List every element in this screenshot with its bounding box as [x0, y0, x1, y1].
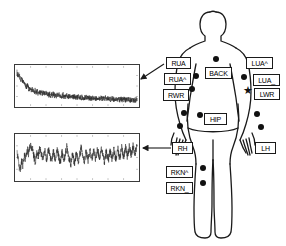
sensor-label-rkn[interactable]: RKN_ — [166, 182, 193, 194]
sensor-label-lua[interactable]: LUA_ — [253, 74, 280, 86]
callout-arrows — [0, 0, 286, 246]
sensor-label-back[interactable]: BACK — [205, 67, 232, 79]
star-marker-lwr: ★ — [243, 85, 253, 96]
sensor-label-lua[interactable]: LUA^ — [246, 57, 273, 69]
sensor-label-lwr[interactable]: LWR — [254, 88, 280, 100]
sensor-label-rua[interactable]: RUA — [166, 57, 191, 69]
sensor-label-lh[interactable]: LH — [255, 142, 276, 154]
callout-rua-to-top-plot — [141, 64, 164, 79]
sensor-label-rua[interactable]: RUA^ — [164, 73, 191, 85]
sensor-label-rwr[interactable]: RWR — [163, 89, 189, 101]
sensor-label-rkn[interactable]: RKN^ — [166, 166, 193, 178]
sensor-label-rh[interactable]: RH — [172, 142, 193, 154]
figure-canvas: RUARUA^RWRBACKLUA^LUA_LWRHIPRHLHRKN^RKN_… — [0, 0, 286, 246]
sensor-label-hip[interactable]: HIP — [204, 113, 227, 125]
